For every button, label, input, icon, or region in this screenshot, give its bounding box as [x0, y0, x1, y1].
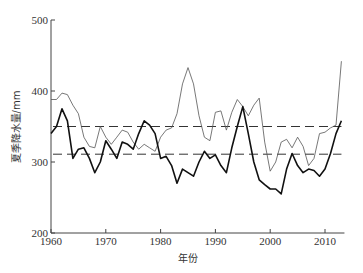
x-tick-label: 1980 — [150, 235, 173, 247]
line-chart: 200300400500196019701980199020002010 年份 … — [0, 0, 363, 273]
x-axis-title: 年份 — [178, 252, 198, 264]
x-tick-label: 1990 — [204, 235, 227, 247]
x-tick-label: 2000 — [259, 235, 282, 247]
series-lines — [51, 61, 341, 194]
y-tick-label: 500 — [32, 14, 49, 26]
x-tick-label: 2010 — [314, 235, 337, 247]
axes: 200300400500196019701980199020002010 — [32, 14, 345, 247]
y-tick-label: 300 — [32, 156, 49, 168]
x-tick-label: 1970 — [95, 235, 118, 247]
reference-lines — [53, 127, 341, 155]
x-tick-label: 1960 — [40, 235, 63, 247]
y-tick-label: 400 — [32, 85, 49, 97]
thin-line — [51, 61, 341, 171]
thick-line — [51, 107, 341, 194]
y-axis-title: 夏季降水量/mm — [10, 91, 22, 164]
